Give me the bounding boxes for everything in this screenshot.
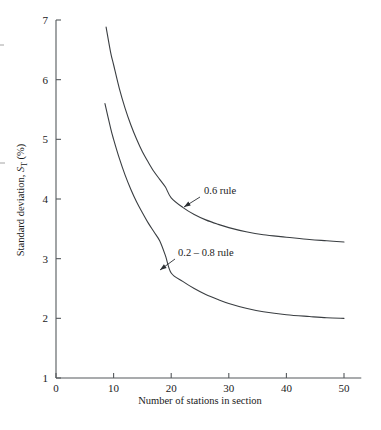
y-axis-title-main: Standard deviation,: [15, 172, 26, 256]
x-tick-label-40: 40: [281, 382, 293, 394]
y-axis-title-units: (%): [15, 143, 27, 162]
y-tick-label-3: 3: [43, 253, 49, 265]
x-tick-label-30: 30: [223, 382, 235, 394]
annotation-0-2-0-8-rule-label: 0.2 – 0.8 rule: [178, 247, 234, 258]
y-tick-label-5: 5: [43, 133, 49, 145]
chart-background: [0, 0, 381, 430]
y-tick-label-2: 2: [43, 312, 49, 324]
annotation-0-6-rule-label: 0.6 rule: [204, 185, 236, 196]
y-tick-label-4: 4: [43, 193, 49, 205]
y-tick-label-7: 7: [43, 14, 49, 26]
y-tick-label-6: 6: [43, 74, 49, 86]
x-tick-label-20: 20: [166, 382, 178, 394]
x-tick-label-0: 0: [53, 382, 59, 394]
x-tick-label-10: 10: [108, 382, 120, 394]
chart-figure: 1234567 01020304050 0.6 rule0.2 – 0.8 ru…: [0, 0, 381, 430]
standard-deviation-line-chart: 1234567 01020304050 0.6 rule0.2 – 0.8 ru…: [0, 0, 381, 430]
x-tick-label-50: 50: [339, 382, 351, 394]
x-axis-title: Number of stations in section: [138, 395, 262, 406]
y-tick-label-1: 1: [43, 372, 49, 384]
